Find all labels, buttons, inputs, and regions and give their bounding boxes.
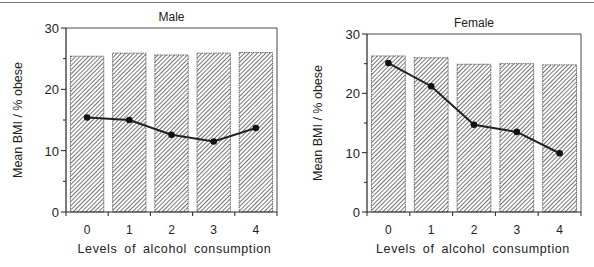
x-axis-label: Levels of alcohol consumption — [78, 242, 272, 256]
y-tick-label: 0 — [52, 205, 59, 220]
y-tick-label: 20 — [45, 82, 59, 97]
y-tick-label: 10 — [346, 146, 360, 161]
line-marker — [253, 125, 260, 132]
y-tick-label: 20 — [346, 86, 360, 101]
line-marker — [556, 150, 563, 157]
line-marker — [168, 131, 175, 138]
x-tick-label: 4 — [253, 223, 260, 237]
female-panel: Female010203001234Levels of alcohol cons… — [311, 16, 581, 256]
y-tick-label: 30 — [45, 21, 59, 36]
y-axis-label: Mean BMI / % obese — [311, 65, 325, 181]
x-tick-label: 3 — [513, 223, 520, 237]
line-marker — [210, 138, 217, 145]
chart-canvas: Male010203001234Levels of alcohol consum… — [0, 0, 594, 267]
y-tick-label: 10 — [45, 144, 59, 159]
y-tick-label: 0 — [353, 205, 360, 220]
x-tick-label: 4 — [556, 223, 563, 237]
y-axis-label: Mean BMI / % obese — [11, 62, 25, 178]
x-tick-label: 2 — [168, 223, 175, 237]
x-tick-label: 0 — [385, 223, 392, 237]
bar-mean-bmi — [543, 65, 577, 212]
line-marker — [514, 129, 521, 136]
x-tick-label: 3 — [210, 223, 217, 237]
x-tick-label: 1 — [428, 223, 435, 237]
line-marker — [428, 83, 435, 90]
bar-mean-bmi — [70, 56, 103, 212]
x-axis-label: Levels of alcohol consumption — [376, 242, 570, 256]
line-marker — [84, 114, 91, 121]
panel-title: Male — [158, 10, 184, 24]
line-marker — [385, 60, 392, 67]
line-marker — [471, 121, 478, 128]
x-tick-label: 0 — [84, 223, 91, 237]
y-tick-label: 30 — [346, 27, 360, 42]
panel-title: Female — [454, 16, 494, 30]
bar-mean-bmi — [113, 53, 146, 212]
line-marker — [126, 117, 133, 124]
bar-mean-bmi — [457, 64, 491, 212]
bar-mean-bmi — [371, 56, 405, 212]
x-tick-label: 2 — [471, 223, 478, 237]
x-tick-label: 1 — [126, 223, 133, 237]
male-panel: Male010203001234Levels of alcohol consum… — [11, 10, 277, 256]
bar-mean-bmi — [197, 53, 230, 212]
